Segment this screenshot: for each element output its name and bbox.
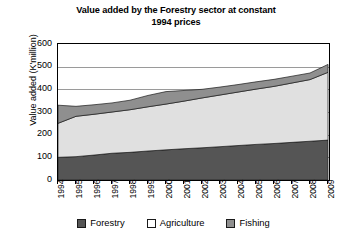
legend-label-fishing: Fishing [239, 218, 269, 228]
x-tick-label: 2008 [308, 179, 317, 198]
stacked-area-series [58, 44, 329, 180]
x-tick-label: 2005 [254, 179, 263, 198]
y-tick-label: 300 [26, 107, 52, 116]
plot-inner [58, 44, 329, 180]
legend-item-fishing[interactable]: Fishing [226, 218, 269, 228]
y-tick-label: 100 [26, 152, 52, 161]
legend-label-agriculture: Agriculture [160, 218, 205, 228]
legend-item-agriculture[interactable]: Agriculture [147, 218, 205, 228]
x-tick-label: 1999 [146, 179, 155, 198]
y-tick-label: 200 [26, 129, 52, 138]
chart-title: Value added by the Forestry sector at co… [42, 4, 310, 28]
x-tick-label: 2000 [164, 179, 173, 198]
forestry-swatch-icon [77, 219, 86, 228]
x-tick-label: 1997 [110, 179, 119, 198]
chart-title-line1: Value added by the Forestry sector at co… [76, 5, 276, 15]
x-tick-label: 1998 [128, 179, 137, 198]
x-tick-label: 2007 [290, 179, 299, 198]
x-tick-label: 2002 [200, 179, 209, 198]
x-tick-label: 2001 [182, 179, 191, 198]
legend-label-forestry: Forestry [90, 218, 124, 228]
y-tick-label: 600 [26, 39, 52, 48]
fishing-swatch-icon [226, 219, 235, 228]
y-tick-label: 0 [26, 175, 52, 184]
x-tick-label: 2006 [272, 179, 281, 198]
chart-figure: Value added by the Forestry sector at co… [0, 0, 347, 239]
plot-area [57, 43, 330, 181]
chart-legend: Forestry Agriculture Fishing [0, 215, 347, 231]
x-tick-label: 2004 [236, 179, 245, 198]
agriculture-swatch-icon [147, 219, 156, 228]
y-axis-tick-labels: 0100200300400500600 [22, 0, 52, 239]
x-axis-tick-labels: 1994199519961997199819992000200120022003… [57, 181, 328, 213]
x-tick-label: 1995 [74, 179, 83, 198]
x-tick-label: 2003 [218, 179, 227, 198]
x-tick-label: 2009 [326, 179, 335, 198]
chart-title-line2: 1994 prices [42, 16, 310, 28]
y-tick-label: 500 [26, 61, 52, 70]
legend-item-forestry[interactable]: Forestry [77, 218, 124, 228]
x-tick-label: 1996 [92, 179, 101, 198]
x-tick-label: 1994 [56, 179, 65, 198]
y-tick-label: 400 [26, 84, 52, 93]
